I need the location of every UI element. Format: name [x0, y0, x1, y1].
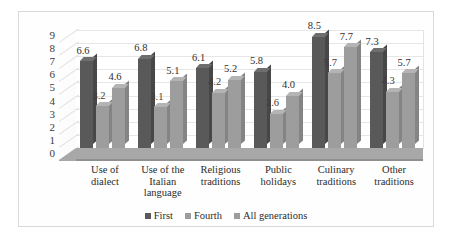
chart-floor-front-edge [76, 159, 423, 161]
bar-value-label: 6.1 [192, 53, 205, 64]
legend-item[interactable]: Fourth [185, 211, 222, 222]
bar[interactable] [344, 47, 357, 148]
bar-value-label: 4.6 [108, 72, 121, 83]
bars-container: 6.63.24.66.83.15.16.14.25.25.82.64.08.55… [76, 30, 423, 148]
y-axis-tick-4: 4 [50, 96, 56, 107]
bar-face [96, 106, 109, 148]
bar-side [183, 74, 187, 144]
bar[interactable] [286, 96, 299, 148]
category-label: Othertraditions [359, 164, 429, 187]
legend-swatch-icon [185, 213, 191, 219]
bar-value-label: 4.3 [382, 76, 395, 87]
legend-label: Fourth [194, 211, 222, 222]
bar[interactable] [254, 72, 267, 148]
bar-face [370, 52, 383, 148]
y-axis-tick-7: 7 [50, 56, 56, 67]
bar[interactable] [212, 93, 225, 148]
category-label-line: Other [359, 164, 429, 176]
bar[interactable] [328, 73, 341, 148]
bar-face [80, 61, 93, 148]
bar-face [154, 107, 167, 148]
bar-side [125, 80, 129, 144]
chart-card: 6.63.24.66.83.15.16.14.25.25.82.64.08.55… [18, 11, 434, 227]
y-axis-tick-2: 2 [50, 122, 56, 133]
bar-top [386, 88, 403, 92]
category-label-line: language [128, 187, 198, 199]
bar-top [312, 33, 329, 37]
bar[interactable] [112, 88, 125, 148]
bar[interactable] [80, 61, 93, 148]
y-axis-tick-1: 1 [50, 135, 56, 146]
bar-side [357, 39, 361, 144]
bar[interactable] [228, 80, 241, 148]
legend-label: All generations [243, 211, 307, 222]
bar-value-label: 5.8 [250, 56, 263, 67]
bar[interactable] [270, 114, 283, 148]
chart-depth-wall [59, 30, 76, 160]
bar-value-label: 3.1 [150, 92, 163, 103]
bar[interactable] [386, 92, 399, 148]
bar-group: 6.63.24.6 [80, 30, 125, 148]
bar-face [138, 59, 151, 148]
bar-side [241, 72, 245, 144]
bar-face [312, 37, 325, 148]
bar-value-label: 5.7 [398, 58, 411, 69]
plot-area: 6.63.24.66.83.15.16.14.25.25.82.64.08.55… [59, 30, 423, 160]
bar[interactable] [138, 59, 151, 148]
bar[interactable] [96, 106, 109, 148]
bar[interactable] [312, 37, 325, 148]
bar-face [254, 72, 267, 148]
bar-value-label: 5.1 [166, 66, 179, 77]
y-axis-tick-5: 5 [50, 82, 56, 93]
bar-value-label: 2.6 [266, 98, 279, 109]
bar-face [386, 92, 399, 148]
bar-face [402, 73, 415, 148]
bar-face [112, 88, 125, 148]
bar-side [415, 66, 419, 144]
legend-item[interactable]: All generations [234, 211, 307, 222]
bar[interactable] [170, 81, 183, 148]
bar-value-label: 6.6 [76, 46, 89, 57]
bar-face [228, 80, 241, 148]
bar-face [328, 73, 341, 148]
bar-face [344, 47, 357, 148]
bar-group: 5.82.64.0 [254, 30, 299, 148]
y-axis-tick-8: 8 [50, 43, 56, 54]
bar-group: 6.83.15.1 [138, 30, 183, 148]
bar[interactable] [402, 73, 415, 148]
y-axis-tick-9: 9 [50, 30, 56, 41]
legend-item[interactable]: First [145, 211, 173, 222]
y-axis: 0123456789 [33, 24, 55, 152]
bar-face [286, 96, 299, 148]
bar[interactable] [154, 107, 167, 148]
bar-value-label: 4.0 [282, 80, 295, 91]
bar-side [299, 88, 303, 144]
bar-value-label: 5.7 [324, 58, 337, 69]
bar-face [170, 81, 183, 148]
legend-label: First [154, 211, 173, 222]
x-axis-category-labels: Use ofdialectUse of theItalianlanguageRe… [59, 164, 427, 208]
bar-value-label: 6.8 [134, 43, 147, 54]
y-axis-tick-0: 0 [50, 148, 56, 159]
legend-swatch-icon [234, 213, 240, 219]
bar-value-label: 7.3 [366, 37, 379, 48]
chart-legend: FirstFourthAll generations [19, 208, 433, 224]
bar-value-label: 5.2 [224, 64, 237, 75]
bar-group: 8.55.77.7 [312, 30, 357, 148]
bar-group: 6.14.25.2 [196, 30, 241, 148]
y-axis-tick-6: 6 [50, 69, 56, 80]
bar-value-label: 3.2 [92, 91, 105, 102]
y-axis-tick-3: 3 [50, 109, 56, 120]
bar-face [270, 114, 283, 148]
bar-value-label: 4.2 [208, 77, 221, 88]
bar[interactable] [370, 52, 383, 148]
bar-value-label: 8.5 [308, 21, 321, 32]
category-label-line: traditions [359, 176, 429, 188]
bar-group: 7.34.35.7 [370, 30, 415, 148]
bar-value-label: 7.7 [340, 32, 353, 43]
legend-swatch-icon [145, 213, 151, 219]
bar-face [212, 93, 225, 148]
